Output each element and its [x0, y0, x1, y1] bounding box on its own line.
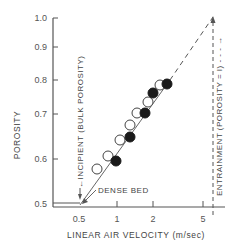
- data-point: [111, 156, 121, 166]
- data-point: [125, 120, 135, 130]
- y-tick-0.7: 0.7: [34, 109, 47, 119]
- x-tick-1: 1: [114, 214, 119, 224]
- x-tick-2: 2: [150, 214, 155, 224]
- x-axis-title: LINEAR AIR VELOCITY (m/sec): [67, 230, 205, 240]
- data-point: [125, 132, 135, 142]
- y-tick-0.6: 0.6: [34, 154, 47, 164]
- x-ticks: [117, 201, 203, 207]
- data-point: [140, 108, 150, 118]
- porosity-chart: 1.0 0.9 0.8 0.7 0.6 0.5 0.5 1 2 5 LINEAR…: [0, 0, 238, 246]
- data-point: [143, 97, 153, 107]
- data-point: [115, 135, 125, 145]
- data-point: [92, 164, 102, 174]
- y-tick-0.9: 0.9: [34, 42, 47, 52]
- y-ticks: [53, 18, 58, 159]
- x-tick-labels: 0.5 1 2 5: [73, 214, 206, 224]
- y-tick-1.0: 1.0: [34, 13, 47, 23]
- x-tick-0.5: 0.5: [73, 214, 86, 224]
- data-point: [148, 88, 158, 98]
- fit-line-dashed: [170, 17, 213, 80]
- incipient-arrow-icon: [78, 194, 82, 200]
- y-tick-0.8: 0.8: [34, 75, 47, 85]
- incipient-label: ←INCIPIENT (BULK POROSITY): [76, 56, 85, 188]
- y-tick-0.5: 0.5: [34, 199, 47, 209]
- data-point: [162, 79, 172, 89]
- filled-circle-series: [111, 79, 172, 166]
- dense-bed-label: DENSE BED: [98, 186, 149, 195]
- x-tick-5: 5: [200, 214, 205, 224]
- y-tick-labels: 1.0 0.9 0.8 0.7 0.6 0.5: [34, 13, 47, 209]
- y-axis-title: POROSITY: [12, 111, 22, 160]
- entrainment-label: ENTRAINMENT (POROSITY = I) - - - →: [215, 36, 224, 196]
